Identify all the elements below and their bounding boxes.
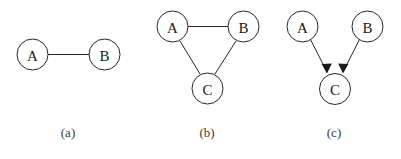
caption-a: (a) (61, 125, 75, 140)
node-label: B (99, 48, 109, 64)
node-c-C[interactable]: C (320, 74, 351, 105)
node-label: C (330, 82, 340, 98)
figure-canvas: A B (a) A B C (0, 0, 401, 159)
arrowhead-icon (322, 63, 332, 73)
subfigure-c: A B C (c) (287, 11, 383, 140)
node-label: B (238, 20, 248, 36)
graph-figure-svg: A B (a) A B C (0, 0, 401, 159)
node-b-B[interactable]: B (228, 11, 259, 42)
node-b-A[interactable]: A (157, 11, 188, 42)
node-label: B (362, 20, 372, 36)
node-label: A (27, 48, 38, 64)
edge-b-bc (215, 40, 237, 74)
node-label: A (297, 20, 308, 36)
caption-b: (b) (199, 125, 214, 140)
node-c-A[interactable]: A (287, 11, 318, 42)
node-label: A (167, 20, 178, 36)
caption-c: (c) (327, 125, 341, 140)
node-label: C (202, 82, 212, 98)
subfigure-a: A B (a) (17, 39, 120, 140)
node-b-C[interactable]: C (192, 73, 223, 104)
node-a-A[interactable]: A (17, 39, 48, 70)
node-c-B[interactable]: B (352, 11, 383, 42)
subfigure-b: A B C (b) (157, 11, 259, 140)
arrowhead-icon (338, 63, 348, 73)
edge-b-ac (180, 40, 201, 74)
node-a-B[interactable]: B (89, 39, 120, 70)
